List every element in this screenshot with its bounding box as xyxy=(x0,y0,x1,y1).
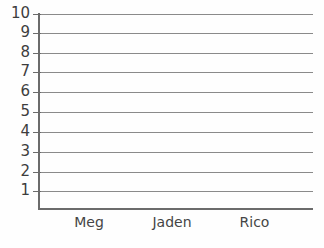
y-axis-label-2-text: 2 xyxy=(0,163,30,179)
chart-plot-area: 10 9 8 7 6 5 4 xyxy=(0,0,324,248)
y-tick-1 xyxy=(33,191,41,192)
y-tick-4 xyxy=(33,132,41,133)
y-axis-label-4-text: 4 xyxy=(0,123,30,139)
y-tick-8 xyxy=(33,53,41,54)
y-axis-label-7-text: 7 xyxy=(0,63,30,79)
x-axis-label-meg: Meg xyxy=(60,213,118,231)
gridline-2 xyxy=(40,172,313,173)
y-axis-label-6: 6 xyxy=(0,92,32,93)
x-axis-line xyxy=(38,208,313,210)
y-tick-10 xyxy=(33,14,41,15)
gridline-9 xyxy=(40,33,313,34)
y-tick-5 xyxy=(33,112,41,113)
gridline-8 xyxy=(40,53,313,54)
y-axis-label-9: 9 xyxy=(0,33,32,34)
gridline-1 xyxy=(40,191,313,192)
gridline-10 xyxy=(40,14,313,15)
gridline-5 xyxy=(40,112,313,113)
x-axis-label-rico: Rico xyxy=(227,213,282,231)
x-axis-label-jaden: Jaden xyxy=(142,213,202,231)
y-axis-label-10-text: 10 xyxy=(0,5,30,21)
y-axis-label-4: 4 xyxy=(0,132,32,133)
bar-graph-template-screenshot: 10 9 8 7 6 5 4 xyxy=(0,0,324,248)
gridline-4 xyxy=(40,132,313,133)
y-tick-7 xyxy=(33,72,41,73)
y-axis-label-3: 3 xyxy=(0,152,32,153)
y-axis-label-8-text: 8 xyxy=(0,44,30,60)
y-tick-2 xyxy=(33,172,41,173)
y-tick-9 xyxy=(33,33,41,34)
gridline-7 xyxy=(40,72,313,73)
y-axis-label-6-text: 6 xyxy=(0,83,30,99)
y-axis-label-2: 2 xyxy=(0,172,32,173)
y-axis-label-8: 8 xyxy=(0,53,32,54)
y-axis-label-10: 10 xyxy=(0,14,32,15)
gridline-3 xyxy=(40,152,313,153)
y-tick-6 xyxy=(33,92,41,93)
y-axis-label-3-text: 3 xyxy=(0,143,30,159)
y-axis-label-1: 1 xyxy=(0,191,32,192)
y-axis-label-7: 7 xyxy=(0,72,32,73)
y-axis-label-9-text: 9 xyxy=(0,24,30,40)
y-axis-label-1-text: 1 xyxy=(0,182,30,198)
y-tick-3 xyxy=(33,152,41,153)
gridline-6 xyxy=(40,92,313,93)
y-axis-label-5-text: 5 xyxy=(0,103,30,119)
y-axis-label-5: 5 xyxy=(0,112,32,113)
